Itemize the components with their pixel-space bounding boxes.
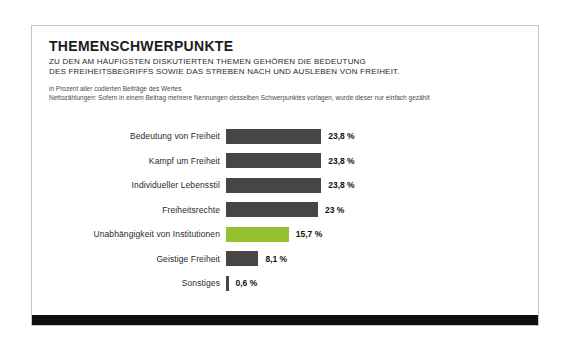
category-label: Bedeutung von Freiheit <box>32 131 220 141</box>
bar <box>226 251 258 266</box>
value-label: 8,1 % <box>265 254 287 264</box>
category-label: Kampf um Freiheit <box>32 156 220 166</box>
chart-row: Sonstiges 0,6 % <box>32 271 538 296</box>
chart-row: Kampf um Freiheit 23,8 % <box>32 149 538 174</box>
value-label: 15,7 % <box>296 229 322 239</box>
category-label: Sonstiges <box>32 278 220 288</box>
category-label: Individueller Lebensstil <box>32 180 220 190</box>
bar <box>226 227 289 242</box>
value-label: 23 % <box>325 205 344 215</box>
bar <box>226 129 321 144</box>
subtitle-line-1: ZU DEN AM HÄUFIGSTEN DISKUTIERTEN THEMEN… <box>49 57 521 67</box>
slide-card: THEMENSCHWERPUNKTE ZU DEN AM HÄUFIGSTEN … <box>31 25 539 326</box>
value-label: 23,8 % <box>328 156 354 166</box>
bar <box>226 153 321 168</box>
chart-row: Geistige Freiheit 8,1 % <box>32 247 538 272</box>
bar-chart: Bedeutung von Freiheit 23,8 % Kampf um F… <box>32 124 538 296</box>
value-label: 23,8 % <box>328 131 354 141</box>
note-line-2: Nettozählungen: Sofern in einem Beitrag … <box>49 93 521 102</box>
bar <box>226 178 321 193</box>
footer-accent-bar <box>32 315 538 325</box>
page-title: THEMENSCHWERPUNKTE <box>49 38 521 54</box>
chart-notes: in Prozent aller codierten Beiträge des … <box>49 84 521 102</box>
chart-subtitle: ZU DEN AM HÄUFIGSTEN DISKUTIERTEN THEMEN… <box>49 57 521 77</box>
value-label: 0,6 % <box>236 278 258 288</box>
bar <box>226 202 318 217</box>
value-label: 23,8 % <box>328 180 354 190</box>
chart-row: Freiheitsrechte 23 % <box>32 198 538 223</box>
chart-row: Unabhängigkeit von Institutionen 15,7 % <box>32 222 538 247</box>
bar <box>226 276 229 291</box>
chart-row: Individueller Lebensstil 23,8 % <box>32 173 538 198</box>
category-label: Freiheitsrechte <box>32 205 220 215</box>
note-line-1: in Prozent aller codierten Beiträge des … <box>49 84 521 93</box>
subtitle-line-2: DES FREIHEITSBEGRIFFS SOWIE DAS STREBEN … <box>49 67 521 77</box>
category-label: Unabhängigkeit von Institutionen <box>32 229 220 239</box>
category-label: Geistige Freiheit <box>32 254 220 264</box>
chart-header: THEMENSCHWERPUNKTE ZU DEN AM HÄUFIGSTEN … <box>49 38 521 102</box>
chart-row: Bedeutung von Freiheit 23,8 % <box>32 124 538 149</box>
